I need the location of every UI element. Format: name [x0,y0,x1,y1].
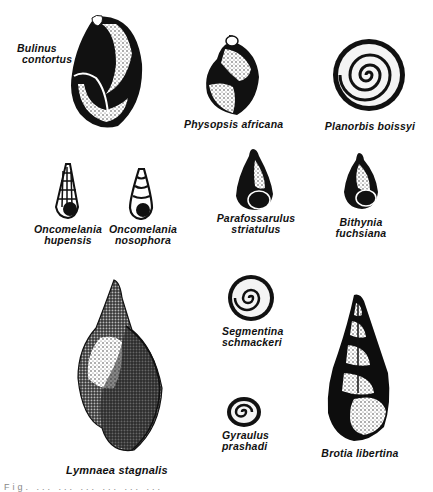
label-bithynia-fuchsiana: Bithynia fuchsiana [330,217,392,239]
segmentina-schmackeri-shell [226,273,276,323]
label-bulinus-contortus: Bulinus contortus [17,43,72,65]
epithet-text: prashadi [222,441,269,452]
bulinus-contortus-shell [66,14,146,130]
epithet-text: nosophora [103,235,183,246]
planorbis-boissyi-shell [330,36,408,114]
label-planorbis-boissyi: Planorbis boissyi [318,121,422,132]
figure-caption-partial: Fig. ... ... ... ... ... ... [4,482,429,492]
label-brotia-libertina: Brotia libertina [314,448,406,459]
oncomelania-hupensis-shell [54,163,80,219]
species-text: Brotia libertina [314,448,406,459]
species-text: Lymnaea stagnalis [58,465,176,476]
oncomelania-nosophora-shell [128,168,154,220]
brotia-libertina-shell [324,293,394,443]
label-parafossarulus-striatulus: Parafossarulus striatulus [212,213,300,235]
label-segmentina-schmackeri: Segmentina schmackeri [222,326,284,348]
parafossarulus-striatulus-shell [233,148,275,212]
epithet-text: schmackeri [222,337,284,348]
label-physopsis-africana: Physopsis africana [184,119,280,130]
label-gyraulus-prashadi: Gyraulus prashadi [222,430,269,452]
label-oncomelania-nosophora: Oncomelania nosophora [103,224,183,246]
epithet-text: contortus [17,54,72,65]
epithet-text: striatulus [212,224,300,235]
epithet-text: hupensis [28,235,108,246]
bithynia-fuchsiana-shell [342,152,380,210]
species-text: Planorbis boissyi [318,121,422,132]
lymnaea-stagnalis-shell [74,278,164,454]
label-lymnaea-stagnalis: Lymnaea stagnalis [58,465,176,476]
gyraulus-prashadi-shell [226,396,262,428]
label-oncomelania-hupensis: Oncomelania hupensis [28,224,108,246]
species-text: Physopsis africana [184,119,280,130]
epithet-text: fuchsiana [330,228,392,239]
physopsis-africana-shell [203,33,261,117]
